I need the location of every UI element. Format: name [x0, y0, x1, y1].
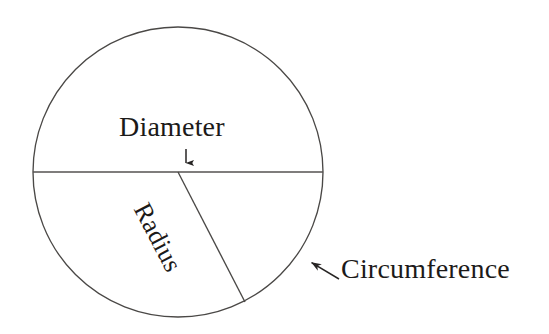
circumference-arrow: [312, 263, 339, 279]
figure-canvas: Diameter Radius Circumference: [0, 0, 549, 334]
circumference-label: Circumference: [341, 255, 510, 283]
diameter-label: Diameter: [119, 113, 225, 141]
